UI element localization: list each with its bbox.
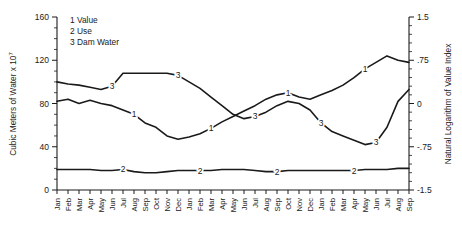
x-tick-label: Sep xyxy=(405,198,414,212)
left-axis: 04080120160 Cubic Meters of Water x 107 xyxy=(8,12,57,195)
series-marker-1: 1 xyxy=(209,123,214,133)
x-tick-label: May xyxy=(229,198,238,213)
x-tick-label: Feb xyxy=(64,198,73,211)
series-marker-3: 3 xyxy=(110,81,115,91)
right-tick-label: 1.5 xyxy=(417,12,429,22)
x-tick-label: Jan xyxy=(53,198,62,210)
series-marker-2: 2 xyxy=(352,166,357,176)
x-tick-label: Aug xyxy=(262,198,271,212)
x-tick-label: Apr xyxy=(218,198,227,210)
x-tick-label: Aug xyxy=(394,198,403,212)
legend-item-value: 1 Value xyxy=(70,15,98,25)
right-axis-title: Natural Logarithm of Value Index xyxy=(443,43,453,165)
x-tick-label: Mar xyxy=(339,198,348,212)
legend-item-use: 2 Use xyxy=(70,26,92,36)
series-marker-1: 1 xyxy=(286,88,291,98)
right-tick-label: 0 xyxy=(417,99,422,109)
left-axis-title-text: Cubic Meters of Water x 10 xyxy=(8,55,18,156)
left-axis-title-exponent: 7 xyxy=(8,52,14,56)
series-marker-1: 1 xyxy=(363,64,368,74)
x-tick-label: Aug xyxy=(130,198,139,212)
right-axis-ticks xyxy=(409,17,414,190)
x-tick-label: Dec xyxy=(174,198,183,212)
x-tick-label: Oct xyxy=(284,197,293,210)
x-tick-label: Nov xyxy=(163,198,172,212)
legend-item-dam-water: 3 Dam Water xyxy=(70,37,119,47)
x-tick-label: Jan xyxy=(317,198,326,210)
x-tick-label: Jun xyxy=(240,198,249,210)
left-tick-label: 40 xyxy=(40,142,50,152)
right-axis-tick-labels: -1.5-.750.751.5 xyxy=(417,12,432,195)
x-tick-label: Oct xyxy=(152,197,161,210)
x-tick-label: Feb xyxy=(328,198,337,211)
bottom-axis: JanFebMarAprMayJunJulAugSepOctNovDecJanF… xyxy=(53,190,414,212)
x-axis-ticks xyxy=(57,190,409,194)
x-tick-label: May xyxy=(361,198,370,213)
series-line-1 xyxy=(57,56,409,139)
right-axis: -1.5-.750.751.5 Natural Logarithm of Val… xyxy=(409,12,453,195)
series-marker-2: 2 xyxy=(275,167,280,177)
x-tick-label: Jun xyxy=(372,198,381,210)
series-marker-2: 2 xyxy=(121,164,126,174)
x-tick-label: Nov xyxy=(295,198,304,212)
line-chart: 04080120160 Cubic Meters of Water x 107 … xyxy=(0,0,462,236)
series-marker-3: 3 xyxy=(319,118,324,128)
legend: 1 Value 2 Use 3 Dam Water xyxy=(70,15,119,47)
x-tick-label: Jul xyxy=(383,198,392,208)
series-marker-3: 3 xyxy=(374,137,379,147)
x-tick-label: Jul xyxy=(251,198,260,208)
series-group xyxy=(57,56,409,173)
left-axis-tick-labels: 04080120160 xyxy=(35,12,49,195)
series-marker-3: 3 xyxy=(176,70,181,80)
x-tick-label: May xyxy=(97,198,106,213)
x-tick-label: Sep xyxy=(273,198,282,212)
x-tick-label: Dec xyxy=(306,198,315,212)
x-tick-label: Sep xyxy=(141,198,150,212)
left-tick-label: 0 xyxy=(44,185,49,195)
right-tick-label: -.75 xyxy=(417,142,432,152)
x-tick-label: Apr xyxy=(350,198,359,210)
right-tick-label: -1.5 xyxy=(417,185,432,195)
x-tick-label: Feb xyxy=(196,198,205,211)
chart-container: 04080120160 Cubic Meters of Water x 107 … xyxy=(0,0,462,236)
x-tick-label: Jun xyxy=(108,198,117,210)
x-tick-label: Mar xyxy=(207,198,216,212)
left-tick-label: 160 xyxy=(35,12,49,22)
x-tick-label: Jan xyxy=(185,198,194,210)
series-marker-1: 1 xyxy=(132,109,137,119)
right-tick-label: .75 xyxy=(417,55,429,65)
left-tick-label: 80 xyxy=(40,99,50,109)
series-marker-3: 3 xyxy=(253,111,258,121)
x-axis-tick-labels: JanFebMarAprMayJunJulAugSepOctNovDecJanF… xyxy=(53,197,414,212)
x-tick-label: Jul xyxy=(119,198,128,208)
series-marker-labels: 11111111222222223333333333 xyxy=(110,64,379,177)
series-marker-2: 2 xyxy=(198,166,203,176)
x-tick-label: Apr xyxy=(86,198,95,210)
left-axis-ticks xyxy=(52,17,57,190)
left-axis-title: Cubic Meters of Water x 107 xyxy=(8,52,18,156)
x-tick-label: Mar xyxy=(75,198,84,212)
left-tick-label: 120 xyxy=(35,55,49,65)
